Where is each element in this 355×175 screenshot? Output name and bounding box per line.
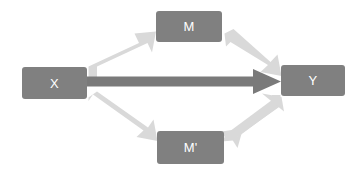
node-m-prime[interactable]: M' xyxy=(157,131,224,164)
arrow-x-to-m-prime xyxy=(89,92,158,142)
node-x[interactable]: X xyxy=(22,67,87,99)
node-m-label: M xyxy=(183,20,194,33)
node-y-label: Y xyxy=(309,74,318,87)
node-y[interactable]: Y xyxy=(281,65,345,96)
arrow-m-prime-to-y-shaft xyxy=(222,97,282,142)
arrow-x-to-y-direct xyxy=(87,69,281,94)
diagram-canvas: X M M' Y xyxy=(0,0,355,175)
node-m[interactable]: M xyxy=(156,11,222,42)
arrow-x-to-m xyxy=(89,32,157,79)
arrow-m-to-y xyxy=(225,29,282,76)
node-x-label: X xyxy=(50,77,59,90)
node-m-prime-label: M' xyxy=(184,141,198,154)
